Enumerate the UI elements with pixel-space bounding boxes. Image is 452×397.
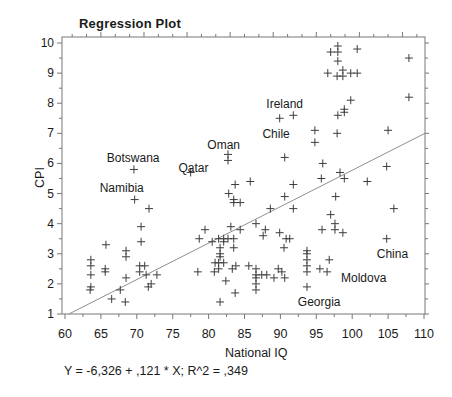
data-point-marker [363,178,371,186]
data-point-marker [347,96,355,104]
x-tick-label: 75 [166,327,180,341]
data-point-marker [405,93,413,101]
data-point-marker [311,138,319,146]
y-tick-label: 5 [47,187,54,201]
data-point-marker [324,69,332,77]
x-tick-label: 60 [58,327,72,341]
data-point-marker [122,274,130,282]
x-tick-label: 85 [238,327,252,341]
data-point-marker [353,45,361,53]
data-point-marker [236,226,244,234]
data-point-marker [281,153,289,161]
data-point-marker [317,175,325,183]
data-point-marker [225,190,233,198]
data-point-marker [216,298,224,306]
data-point-marker [332,193,340,201]
data-point-marker [319,159,327,167]
x-tick-label: 80 [202,327,216,341]
data-point-marker [102,241,110,249]
data-point-marker [224,156,232,164]
data-point-marker [227,223,235,231]
country-label-moldova: Moldova [341,271,387,285]
y-tick-label: 7 [47,126,54,140]
data-point-marker [316,265,324,273]
data-point-marker [390,205,398,213]
x-tick-label: 100 [342,327,363,341]
data-point-marker [121,298,129,306]
data-point-marker [384,126,392,134]
data-point-marker [153,271,161,279]
data-point-marker [333,129,341,137]
country-label-china: China [377,247,409,261]
data-point-marker [334,48,342,56]
data-point-marker [331,226,339,234]
country-label-georgia: Georgia [298,295,341,309]
data-point-marker [289,205,297,213]
x-tick-label: 65 [94,327,108,341]
data-point-marker [195,235,203,243]
data-point-marker [108,295,116,303]
data-point-marker [141,262,149,270]
data-point-marker [339,72,347,80]
y-tick-label: 4 [47,217,54,231]
y-tick-label: 6 [47,156,54,170]
data-point-marker [230,244,238,252]
data-point-marker [87,271,95,279]
data-point-marker [252,286,260,294]
data-point-marker [220,259,228,267]
data-point-marker [201,226,209,234]
data-point-marker [289,181,297,189]
data-point-marker [231,181,239,189]
data-point-marker [137,223,145,231]
data-point-marker [230,235,238,243]
data-point-marker [281,193,289,201]
data-point-marker [339,229,347,237]
data-point-marker [289,111,297,119]
data-point-marker [383,162,391,170]
regression-plot-figure: Regression Plot CPI 12345678910606570758… [0,0,452,397]
data-point-marker [261,226,269,234]
data-point-marker [334,57,342,65]
scatter-points [86,42,413,306]
data-point-marker [245,262,253,270]
y-axis-ticks: 12345678910 [41,36,62,321]
country-label-namibia: Namibia [100,181,144,195]
data-point-marker [327,48,335,56]
data-point-marker [318,226,326,234]
x-tick-label: 110 [414,327,434,341]
data-point-marker [286,235,294,243]
x-tick-label: 95 [309,327,323,341]
data-point-marker [87,262,95,270]
country-label-qatar: Qatar [179,161,209,175]
y-tick-label: 1 [47,307,54,321]
data-point-marker [276,114,284,122]
data-point-marker [246,178,254,186]
right-axis-ticks [425,43,429,314]
data-point-marker [222,277,230,285]
x-tick-label: 70 [130,327,144,341]
country-label-ireland: Ireland [266,97,303,111]
data-point-marker [325,256,333,264]
data-point-marker [131,196,139,204]
data-point-marker [266,205,274,213]
y-tick-label: 10 [41,36,55,50]
data-point-marker [130,165,138,173]
data-point-marker [194,268,202,276]
data-point-marker [145,205,153,213]
data-point-marker [303,283,311,291]
country-label-botswana: Botswana [107,151,160,165]
data-point-marker [276,229,284,237]
y-tick-label: 2 [47,277,54,291]
data-point-marker [353,69,361,77]
data-point-marker [383,235,391,243]
data-point-marker [270,274,278,282]
data-point-marker [327,211,335,219]
x-axis-title: National IQ [225,346,288,360]
regression-equation: Y = -6,326 + ,121 * X; R^2 = ,349 [64,364,248,378]
data-point-marker [280,244,288,252]
data-point-marker [323,268,331,276]
x-axis-ticks: 6065707580859095100105110 [58,314,434,341]
data-point-marker [122,253,130,261]
data-point-marker [137,238,145,246]
y-tick-label: 9 [47,66,54,80]
